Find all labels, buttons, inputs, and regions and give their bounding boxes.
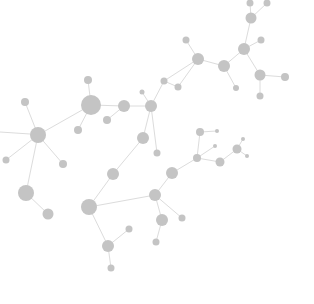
network-node bbox=[156, 214, 168, 226]
network-node bbox=[216, 158, 225, 167]
network-node bbox=[153, 239, 160, 246]
network-node bbox=[281, 73, 289, 81]
network-node bbox=[154, 150, 161, 157]
molecular-network-graphic bbox=[0, 0, 314, 304]
network-node bbox=[30, 127, 46, 143]
network-node bbox=[246, 13, 257, 24]
network-node bbox=[241, 137, 245, 141]
network-node bbox=[145, 100, 157, 112]
network-node bbox=[233, 85, 239, 91]
network-node bbox=[21, 98, 29, 106]
network-node bbox=[103, 116, 111, 124]
network-node bbox=[3, 157, 10, 164]
network-node bbox=[59, 160, 67, 168]
network-node bbox=[107, 168, 119, 180]
network-edge bbox=[26, 135, 38, 193]
network-node bbox=[218, 60, 230, 72]
network-node bbox=[245, 154, 249, 158]
network-node bbox=[238, 43, 250, 55]
network-node bbox=[193, 154, 201, 162]
network-node bbox=[192, 53, 204, 65]
network-node bbox=[18, 185, 34, 201]
network-node bbox=[126, 226, 133, 233]
network-node bbox=[81, 95, 101, 115]
network-node bbox=[74, 126, 82, 134]
network-node bbox=[81, 199, 97, 215]
network-node bbox=[213, 144, 217, 148]
network-node bbox=[233, 145, 242, 154]
network-node bbox=[118, 100, 130, 112]
network-node bbox=[102, 240, 114, 252]
network-node bbox=[137, 132, 149, 144]
network-edge bbox=[164, 59, 198, 81]
network-node bbox=[166, 167, 178, 179]
network-edge bbox=[0, 132, 30, 134]
network-node bbox=[258, 37, 265, 44]
network-node bbox=[179, 215, 186, 222]
network-node bbox=[140, 90, 145, 95]
network-node bbox=[161, 78, 168, 85]
network-node bbox=[43, 209, 54, 220]
network-node bbox=[215, 129, 219, 133]
network-node bbox=[257, 93, 264, 100]
network-node bbox=[108, 265, 115, 272]
network-node bbox=[183, 37, 190, 44]
network-edge bbox=[113, 138, 143, 174]
network-node bbox=[175, 84, 182, 91]
network-edge bbox=[151, 106, 157, 153]
network-node bbox=[84, 76, 92, 84]
network-edge bbox=[89, 195, 155, 207]
network-node bbox=[255, 70, 266, 81]
network-node bbox=[247, 0, 254, 7]
network-node bbox=[196, 128, 204, 136]
network-node bbox=[149, 189, 161, 201]
